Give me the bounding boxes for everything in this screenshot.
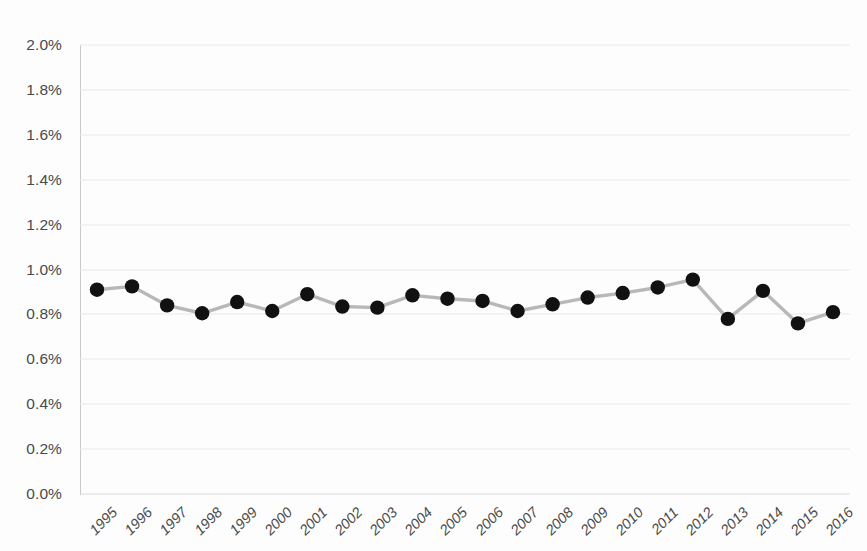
data-point-marker: [616, 286, 630, 300]
x-tick-label: 2011: [648, 504, 681, 537]
x-tick-label: 2001: [296, 504, 330, 538]
y-tick-label: 1.6%: [26, 126, 62, 144]
x-tick-label: 1997: [156, 504, 190, 538]
data-point-marker: [756, 284, 770, 298]
y-tick-label: 0.8%: [26, 305, 62, 323]
data-point-marker: [405, 288, 419, 302]
x-tick-label: 1996: [121, 504, 155, 538]
data-point-marker: [791, 316, 805, 330]
x-tick-label: 2015: [787, 504, 821, 538]
x-tick-label: 2012: [682, 504, 716, 538]
plot-area: [80, 45, 850, 494]
data-point-marker: [721, 312, 735, 326]
chart-container: 0.0%0.2%0.4%0.6%0.8%1.0%1.2%1.4%1.6%1.8%…: [0, 0, 867, 551]
x-tick-label: 2014: [752, 504, 786, 538]
data-point-marker: [160, 298, 174, 312]
y-tick-label: 1.4%: [26, 171, 62, 189]
data-point-marker: [826, 305, 840, 319]
x-tick-label: 1999: [226, 504, 260, 538]
data-point-marker: [510, 304, 524, 318]
series-group: [90, 272, 840, 330]
data-point-marker: [300, 287, 314, 301]
series-line-chart: [80, 45, 850, 494]
y-tick-label: 0.4%: [26, 395, 62, 413]
x-tick-label: 2009: [577, 504, 611, 538]
data-point-marker: [195, 306, 209, 320]
y-tick-label: 1.8%: [26, 81, 62, 99]
x-tick-label: 2000: [261, 504, 295, 538]
data-point-marker: [335, 299, 349, 313]
x-axis-labels: 1995199619971998199920002001200220032004…: [80, 494, 850, 551]
data-point-marker: [686, 272, 700, 286]
y-axis-labels: 0.0%0.2%0.4%0.6%0.8%1.0%1.2%1.4%1.6%1.8%…: [0, 45, 72, 494]
data-point-marker: [90, 283, 104, 297]
x-tick-label: 2013: [717, 504, 751, 538]
y-tick-label: 2.0%: [26, 36, 62, 54]
x-tick-label: 2006: [472, 504, 506, 538]
x-tick-label: 2004: [402, 504, 436, 538]
y-tick-label: 0.2%: [26, 440, 62, 458]
data-point-marker: [125, 279, 139, 293]
data-point-marker: [475, 294, 489, 308]
y-tick-label: 1.2%: [26, 216, 62, 234]
y-tick-label: 0.0%: [26, 485, 62, 503]
x-tick-label: 1995: [86, 504, 120, 538]
data-point-marker: [651, 280, 665, 294]
data-point-marker: [440, 291, 454, 305]
y-tick-label: 0.6%: [26, 350, 62, 368]
x-tick-label: 2010: [612, 504, 646, 538]
x-tick-label: 1998: [191, 504, 225, 538]
data-point-marker: [545, 297, 559, 311]
x-tick-label: 2002: [332, 504, 366, 538]
x-tick-label: 2016: [822, 504, 856, 538]
data-point-marker: [580, 290, 594, 304]
data-point-marker: [370, 300, 384, 314]
data-point-marker: [265, 304, 279, 318]
x-tick-label: 2007: [507, 504, 541, 538]
x-tick-label: 2005: [437, 504, 471, 538]
y-tick-label: 1.0%: [26, 261, 62, 279]
x-tick-label: 2003: [367, 504, 401, 538]
data-point-marker: [230, 295, 244, 309]
x-tick-label: 2008: [542, 504, 576, 538]
